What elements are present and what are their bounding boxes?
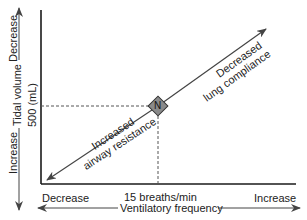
y-axis-top-label: Decrease — [8, 15, 19, 62]
tidal-volume-reference-value: 500 (mL) — [27, 83, 38, 127]
x-axis-left-label: Decrease — [42, 193, 89, 204]
x-axis-right-label: Increase — [254, 193, 296, 204]
y-axis-title: Tidal volume — [12, 64, 23, 126]
normal-point-label: N — [154, 101, 161, 111]
x-axis-title: Ventilatory frequency — [120, 203, 223, 214]
y-axis-bottom-label: Increase — [8, 132, 19, 174]
